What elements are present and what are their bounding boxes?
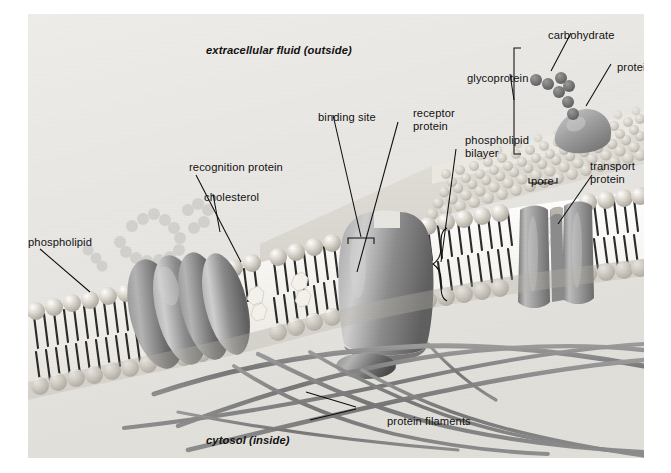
label-protein: protein	[617, 61, 644, 74]
label-transport-protein-line1: transport	[590, 160, 635, 173]
membrane-artwork	[28, 14, 644, 458]
label-receptor-protein-line1: receptor	[413, 107, 455, 120]
label-phospholipid-bilayer-line1: phospholipid	[465, 134, 529, 147]
label-binding-site: binding site	[318, 111, 376, 124]
label-carbohydrate: carbohydrate	[548, 29, 615, 42]
figure-root: extracellular fluid (outside) cytosol (i…	[0, 0, 671, 473]
transport-protein	[518, 202, 594, 309]
label-recognition-protein: recognition protein	[189, 161, 283, 174]
label-cytosol: cytosol (inside)	[206, 434, 290, 447]
label-pore: pore	[531, 175, 554, 188]
label-cholesterol: cholesterol	[204, 191, 259, 204]
label-phospholipid-bilayer-line2: bilayer	[465, 147, 499, 160]
label-glycoprotein: glycoprotein	[467, 72, 529, 85]
label-extracellular-fluid: extracellular fluid (outside)	[206, 44, 352, 57]
membrane-diagram: extracellular fluid (outside) cytosol (i…	[28, 14, 644, 458]
label-phospholipid: phospholipid	[28, 236, 92, 249]
label-transport-protein-line2: protein	[590, 173, 625, 186]
label-receptor-protein-line2: protein	[413, 120, 448, 133]
label-protein-filaments: protein filaments	[387, 415, 471, 428]
